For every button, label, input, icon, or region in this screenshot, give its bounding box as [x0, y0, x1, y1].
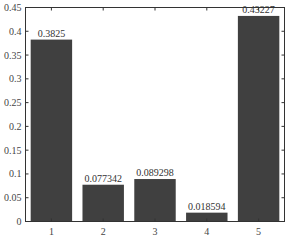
x-tick-label: 4: [204, 226, 209, 237]
bars-group: [31, 16, 280, 222]
y-tick-label: 0.25: [4, 97, 22, 108]
x-tick-label: 3: [153, 226, 158, 237]
y-tick-label: 0.35: [4, 50, 22, 61]
x-tick-label: 1: [49, 226, 54, 237]
data-label-2: 0.077342: [84, 173, 122, 184]
y-tick-label: 0.2: [9, 121, 22, 132]
y-tick-label: 0.4: [9, 26, 22, 37]
data-label-1: 0.3825: [38, 28, 66, 39]
data-label-4: 0.018594: [188, 201, 226, 212]
y-tick-label: 0.45: [4, 2, 22, 13]
y-tick-label: 0.1: [9, 168, 22, 179]
bar-chart: 0.38250.0773420.0892980.0185940.43227 00…: [0, 0, 290, 243]
x-tick-label: 2: [101, 226, 106, 237]
bar-3: [134, 179, 175, 221]
x-tick-label: 5: [256, 226, 261, 237]
y-tick-label: 0: [17, 216, 22, 227]
y-tick-label: 0.05: [4, 192, 22, 203]
y-tick-label: 0.3: [9, 73, 22, 84]
bar-1: [31, 40, 72, 222]
bar-2: [82, 185, 123, 222]
data-label-3: 0.089298: [136, 167, 174, 178]
bar-5: [238, 16, 279, 222]
y-tick-label: 0.15: [4, 145, 22, 156]
